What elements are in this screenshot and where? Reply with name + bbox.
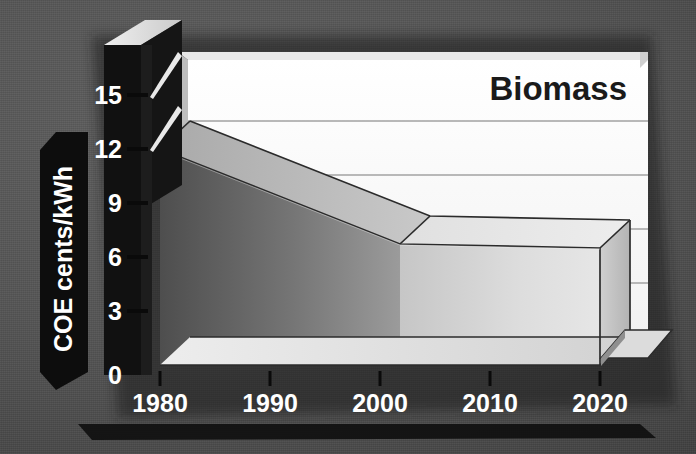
x-tick-label-1990: 1990 [242,389,298,417]
x-axis-plinth [78,424,656,440]
area-base-floor [160,337,630,365]
chart-title: Biomass [489,70,627,107]
y-tick-label-15: 15 [94,81,122,109]
x-tick-label-1980: 1980 [132,389,188,417]
y-tick-label-9: 9 [108,189,122,217]
x-tick-label-2000: 2000 [352,389,408,417]
area-top-surface-flat [400,216,630,248]
y-tick-label-6: 6 [108,243,122,271]
biomass-coe-chart: Biomass [0,0,696,454]
chart-screenshot: Biomass [0,0,696,454]
y-tick-label-0: 0 [108,361,122,389]
x-tick-label-2020: 2020 [572,389,628,417]
y-tick-label-12: 12 [94,135,122,163]
x-tick-label-2010: 2010 [462,389,518,417]
y-tick-label-3: 3 [108,297,122,325]
y-axis-title: COE cents/kWh [49,166,77,352]
y-axis-title-plate: COE cents/kWh [40,132,88,390]
